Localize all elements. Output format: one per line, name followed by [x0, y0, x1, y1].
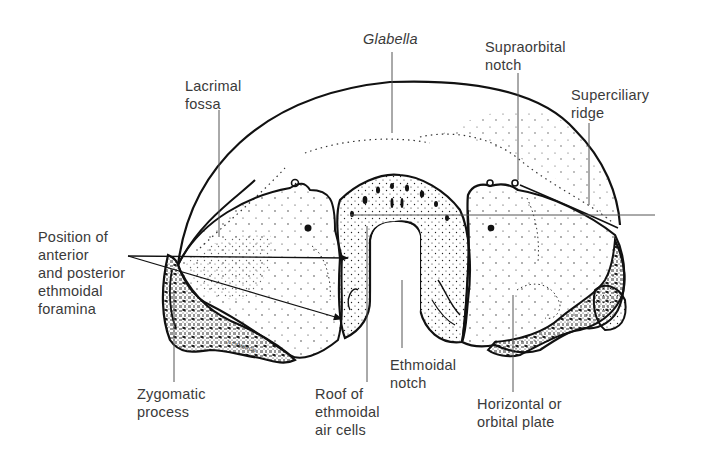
label-roof-ethmoidal-air-cells: Roof of ethmoidal air cells — [315, 385, 380, 439]
label-zygomatic-process: Zygomatic process — [137, 385, 206, 421]
label-glabella: Glabella — [363, 30, 418, 48]
ethmoidal-notch-space — [371, 222, 420, 331]
label-supraorbital-notch: Supraorbital notch — [485, 38, 566, 74]
label-ethmoidal-foramina: Position of anterior and posterior ethmo… — [38, 228, 125, 318]
label-lacrimal-fossa: Lacrimal fossa — [185, 77, 241, 113]
label-superciliary-ridge: Superciliary ridge — [571, 86, 649, 122]
label-ethmoidal-notch: Ethmoidal notch — [390, 356, 456, 392]
label-orbital-plate: Horizontal or orbital plate — [477, 395, 562, 431]
